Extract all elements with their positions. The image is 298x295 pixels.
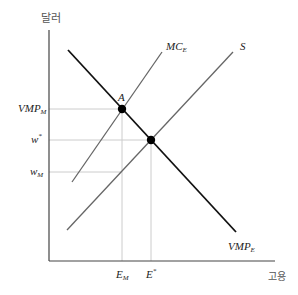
- x-tick-e-m: EM: [115, 268, 130, 282]
- vmp-curve-label: VMPE: [228, 240, 256, 254]
- x-axis-label: 고용: [268, 271, 286, 282]
- point-a-label: A: [117, 91, 125, 103]
- point-a: [118, 105, 126, 113]
- mc-curve: [72, 52, 162, 182]
- y-tick-vmp-m: VMPM: [18, 102, 48, 116]
- y-tick-w-m: wM: [30, 165, 44, 179]
- supply-curve-label: S: [240, 40, 246, 52]
- guide-lines: [49, 109, 151, 261]
- mc-curve-label: MCE: [165, 40, 188, 54]
- y-tick-w-star: w*: [31, 132, 42, 145]
- monopsony-diagram: 달러 고용 MCE S VMPE A VMPM w* wM EM E*: [0, 0, 298, 295]
- y-axis-label: 달러: [41, 12, 61, 25]
- point-competitive-equilibrium: [147, 136, 155, 144]
- x-tick-e-star: E*: [145, 267, 157, 280]
